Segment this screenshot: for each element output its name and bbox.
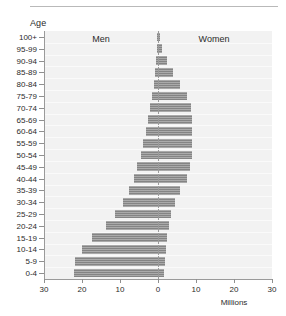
bar-men-70-74 bbox=[150, 103, 158, 112]
bar-women-20-24 bbox=[159, 221, 169, 230]
y-tick bbox=[39, 120, 44, 121]
bar-women-40-44 bbox=[159, 174, 187, 183]
plot-row-separator bbox=[44, 66, 272, 67]
bar-women-90-94 bbox=[159, 56, 167, 65]
y-tick-label-95-99: 95-99 bbox=[0, 44, 37, 53]
y-tick bbox=[39, 61, 44, 62]
bar-women-0-4 bbox=[159, 269, 164, 278]
bar-women-80-84 bbox=[159, 80, 180, 89]
y-tick bbox=[39, 202, 44, 203]
y-tick-label-50-54: 50-54 bbox=[0, 151, 37, 160]
y-tick-label-45-49: 45-49 bbox=[0, 162, 37, 171]
bar-women-50-54 bbox=[159, 151, 192, 160]
bar-men-90-94 bbox=[156, 56, 158, 65]
y-tick bbox=[39, 49, 44, 50]
y-tick bbox=[39, 143, 44, 144]
series-label-women: Women bbox=[199, 34, 230, 44]
y-tick bbox=[39, 84, 44, 85]
bar-men-65-69 bbox=[148, 115, 158, 124]
y-tick-label-0-4: 0-4 bbox=[0, 269, 37, 278]
bar-women-45-49 bbox=[159, 162, 190, 171]
y-tick-label-55-59: 55-59 bbox=[0, 139, 37, 148]
bar-men-25-29 bbox=[115, 210, 158, 219]
plot-row-separator bbox=[44, 102, 272, 103]
x-tick-label-4: 10 bbox=[192, 285, 201, 294]
y-tick bbox=[39, 214, 44, 215]
y-tick bbox=[39, 273, 44, 274]
y-tick bbox=[39, 37, 44, 38]
x-tick-label-6: 30 bbox=[268, 285, 277, 294]
bar-women-35-39 bbox=[159, 186, 180, 195]
bar-women-70-74 bbox=[159, 103, 191, 112]
y-tick bbox=[39, 226, 44, 227]
plot-row-separator bbox=[44, 78, 272, 79]
bar-women-100+ bbox=[159, 33, 160, 42]
plot-row-separator bbox=[44, 161, 272, 162]
y-tick-label-30-34: 30-34 bbox=[0, 198, 37, 207]
plot-row-separator bbox=[44, 185, 272, 186]
bar-women-65-69 bbox=[159, 115, 192, 124]
x-tick-label-1: 20 bbox=[78, 285, 87, 294]
bar-men-30-34 bbox=[123, 198, 158, 207]
x-tick bbox=[196, 279, 197, 283]
plot-row-separator bbox=[44, 90, 272, 91]
bar-women-15-19 bbox=[159, 233, 167, 242]
x-tick-label-0: 30 bbox=[40, 285, 49, 294]
x-tick bbox=[120, 279, 121, 283]
plot-row-separator bbox=[44, 125, 272, 126]
y-tick-label-75-79: 75-79 bbox=[0, 91, 37, 100]
bar-women-5-9 bbox=[159, 257, 165, 266]
top-divider-rule bbox=[30, 6, 278, 7]
bar-women-60-64 bbox=[159, 127, 192, 136]
x-tick bbox=[158, 279, 159, 283]
bar-men-10-14 bbox=[82, 245, 158, 254]
plot-row-separator bbox=[44, 244, 272, 245]
bar-men-50-54 bbox=[141, 151, 158, 160]
x-tick-label-5: 20 bbox=[230, 285, 239, 294]
series-label-men: Men bbox=[92, 34, 110, 44]
bar-men-40-44 bbox=[134, 174, 158, 183]
y-axis-line bbox=[44, 31, 45, 279]
plot-row-separator bbox=[44, 137, 272, 138]
bar-men-45-49 bbox=[137, 162, 158, 171]
bar-men-5-9 bbox=[75, 257, 158, 266]
bar-men-15-19 bbox=[92, 233, 158, 242]
bar-men-55-59 bbox=[143, 139, 158, 148]
plot-row-separator bbox=[44, 196, 272, 197]
y-tick bbox=[39, 249, 44, 250]
bar-women-75-79 bbox=[159, 92, 187, 101]
bar-women-10-14 bbox=[159, 245, 166, 254]
y-tick bbox=[39, 179, 44, 180]
x-tick bbox=[234, 279, 235, 283]
plot-area bbox=[44, 31, 272, 279]
plot-row-separator bbox=[44, 149, 272, 150]
population-pyramid-figure: Age 100+95-9990-9485-8980-8475-7970-7465… bbox=[0, 0, 286, 316]
y-tick bbox=[39, 131, 44, 132]
y-tick-label-85-89: 85-89 bbox=[0, 68, 37, 77]
x-tick bbox=[44, 279, 45, 283]
x-tick-label-3: 0 bbox=[156, 285, 160, 294]
plot-row-separator bbox=[44, 114, 272, 115]
y-tick bbox=[39, 261, 44, 262]
y-tick-label-40-44: 40-44 bbox=[0, 174, 37, 183]
y-tick-label-25-29: 25-29 bbox=[0, 210, 37, 219]
y-tick bbox=[39, 155, 44, 156]
y-tick bbox=[39, 238, 44, 239]
y-tick bbox=[39, 72, 44, 73]
plot-row-separator bbox=[44, 173, 272, 174]
y-tick-label-10-14: 10-14 bbox=[0, 245, 37, 254]
plot-row-separator bbox=[44, 43, 272, 44]
y-tick-label-35-39: 35-39 bbox=[0, 186, 37, 195]
plot-row-separator bbox=[44, 208, 272, 209]
y-tick-label-100+: 100+ bbox=[0, 32, 37, 41]
bar-women-25-29 bbox=[159, 210, 171, 219]
y-tick bbox=[39, 96, 44, 97]
y-tick bbox=[39, 190, 44, 191]
y-tick-label-70-74: 70-74 bbox=[0, 103, 37, 112]
x-tick bbox=[272, 279, 273, 283]
x-tick-label-2: 10 bbox=[116, 285, 125, 294]
bar-women-85-89 bbox=[159, 68, 173, 77]
y-tick bbox=[39, 108, 44, 109]
bar-women-55-59 bbox=[159, 139, 192, 148]
y-tick-label-65-69: 65-69 bbox=[0, 115, 37, 124]
